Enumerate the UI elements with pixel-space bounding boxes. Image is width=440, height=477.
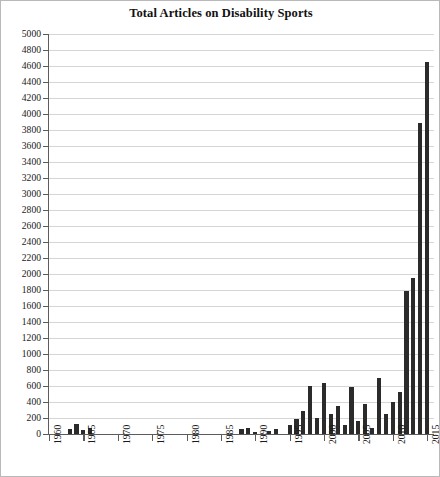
x-axis-tick — [83, 435, 84, 441]
y-axis-tick-label: 4200 — [1, 93, 41, 103]
chart-title: Total Articles on Disability Sports — [1, 6, 440, 21]
x-axis-tick — [118, 435, 119, 441]
x-axis-tick-label: 1995 — [294, 425, 304, 444]
bar — [315, 418, 319, 434]
y-axis-tick-label: 4000 — [1, 109, 41, 119]
x-axis-tick-label: 2015 — [431, 425, 440, 444]
bar — [356, 421, 360, 434]
y-axis-labels: 0200400600800100012001400160018002000220… — [1, 1, 41, 477]
x-axis-tick-label: 1985 — [225, 425, 235, 444]
y-axis-tick-label: 2000 — [1, 269, 41, 279]
y-axis-tick-label: 400 — [1, 397, 41, 407]
y-axis-tick — [43, 194, 49, 195]
bar — [384, 414, 388, 434]
y-axis-tick-label: 3200 — [1, 173, 41, 183]
y-axis-tick-label: 1000 — [1, 349, 41, 359]
x-axis-tick-label: 1990 — [259, 425, 269, 444]
x-axis-tick — [49, 435, 50, 441]
x-axis-tick-label: 1970 — [122, 425, 132, 444]
bar — [404, 291, 408, 434]
chart-figure: Total Articles on Disability Sports 0200… — [0, 0, 440, 477]
x-axis-tick — [221, 435, 222, 441]
bar — [74, 424, 78, 434]
y-axis-tick — [43, 34, 49, 35]
y-axis-tick — [43, 338, 49, 339]
y-axis-tick-label: 2400 — [1, 237, 41, 247]
bar — [308, 386, 312, 434]
y-axis-tick — [43, 354, 49, 355]
y-axis-tick — [43, 162, 49, 163]
x-axis-line — [44, 434, 434, 435]
x-axis-tick-label: 1980 — [191, 425, 201, 444]
y-axis-tick-label: 800 — [1, 365, 41, 375]
bar — [349, 387, 353, 434]
x-axis-tick — [290, 435, 291, 441]
x-axis-tick — [427, 435, 428, 441]
y-axis-tick — [43, 306, 49, 307]
x-axis-tick — [187, 435, 188, 441]
y-axis-tick — [43, 402, 49, 403]
y-axis-tick — [43, 242, 49, 243]
bar — [377, 378, 381, 434]
bar — [343, 425, 347, 434]
y-axis-tick — [43, 418, 49, 419]
y-axis-tick-label: 2200 — [1, 253, 41, 263]
y-axis-tick — [43, 146, 49, 147]
y-axis-tick-label: 3800 — [1, 125, 41, 135]
y-axis-tick-label: 3400 — [1, 157, 41, 167]
bar — [425, 62, 429, 434]
y-axis-tick — [43, 322, 49, 323]
y-axis-tick — [43, 50, 49, 51]
y-axis-tick-label: 4800 — [1, 45, 41, 55]
y-axis-tick — [43, 258, 49, 259]
y-axis-tick — [43, 226, 49, 227]
y-axis-tick-label: 200 — [1, 413, 41, 423]
x-axis-tick-label: 2005 — [362, 425, 372, 444]
bar — [288, 425, 292, 434]
bar — [391, 402, 395, 434]
y-axis-tick-label: 0 — [1, 429, 41, 439]
x-axis-tick — [393, 435, 394, 441]
y-axis-tick-label: 5000 — [1, 29, 41, 39]
y-axis-tick — [43, 370, 49, 371]
y-axis-tick — [43, 66, 49, 67]
bar — [411, 278, 415, 434]
y-axis-tick — [43, 274, 49, 275]
y-axis-tick-label: 1600 — [1, 301, 41, 311]
y-axis-tick-label: 2600 — [1, 221, 41, 231]
y-axis-tick-label: 3000 — [1, 189, 41, 199]
x-axis-tick-label: 2000 — [328, 425, 338, 444]
y-axis-tick — [43, 82, 49, 83]
bar — [322, 383, 326, 434]
y-axis-tick-label: 1800 — [1, 285, 41, 295]
y-axis-tick — [43, 114, 49, 115]
y-axis-tick-label: 1400 — [1, 317, 41, 327]
y-axis-tick-label: 2800 — [1, 205, 41, 215]
y-axis-tick-label: 1200 — [1, 333, 41, 343]
y-axis-tick — [43, 178, 49, 179]
y-axis-tick — [43, 386, 49, 387]
bar — [418, 123, 422, 434]
x-axis-tick — [358, 435, 359, 441]
x-axis-tick-label: 2010 — [397, 425, 407, 444]
y-axis-tick — [43, 130, 49, 131]
y-axis-line — [48, 34, 49, 435]
x-axis-tick — [324, 435, 325, 441]
y-axis-tick — [43, 98, 49, 99]
y-axis-tick — [43, 290, 49, 291]
y-axis-tick-label: 600 — [1, 381, 41, 391]
x-axis-tick-label: 1960 — [53, 425, 63, 444]
y-axis-tick-label: 3600 — [1, 141, 41, 151]
y-axis-tick-label: 4400 — [1, 77, 41, 87]
bars-layer — [49, 34, 434, 434]
x-axis-tick-label: 1965 — [87, 425, 97, 444]
y-axis-tick-label: 4600 — [1, 61, 41, 71]
x-axis-tick — [152, 435, 153, 441]
x-axis-tick-label: 1975 — [156, 425, 166, 444]
y-axis-tick — [43, 210, 49, 211]
x-axis-tick — [255, 435, 256, 441]
